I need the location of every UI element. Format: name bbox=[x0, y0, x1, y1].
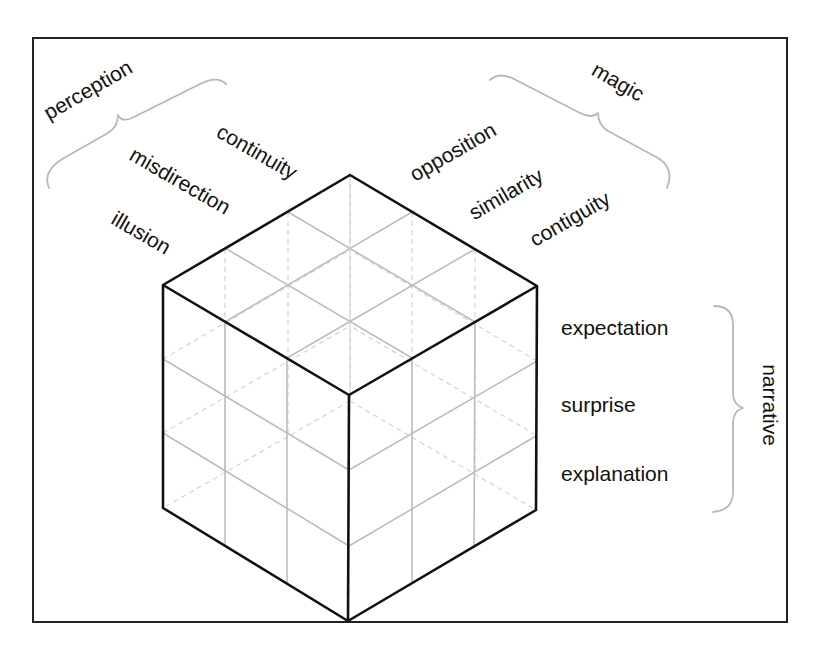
item-contiguity: contiguity bbox=[526, 186, 615, 251]
group-label-perception: perception bbox=[40, 55, 136, 124]
item-surprise: surprise bbox=[561, 393, 636, 416]
group-label-narrative: narrative bbox=[759, 364, 782, 446]
item-similarity: similarity bbox=[465, 163, 548, 224]
diagram-frame bbox=[33, 38, 787, 622]
cube-grid-lines bbox=[163, 175, 537, 584]
item-opposition: opposition bbox=[406, 118, 500, 186]
item-misdirection: misdirection bbox=[126, 143, 235, 219]
group-label-magic: magic bbox=[588, 58, 648, 106]
item-continuity: continuity bbox=[213, 119, 302, 184]
item-illusion: illusion bbox=[108, 207, 175, 259]
item-expectation: expectation bbox=[561, 316, 668, 339]
cube-diagram: perception magic narrative continuity mi… bbox=[0, 0, 815, 656]
narrative-brace bbox=[713, 306, 743, 512]
item-explanation: explanation bbox=[561, 462, 668, 485]
